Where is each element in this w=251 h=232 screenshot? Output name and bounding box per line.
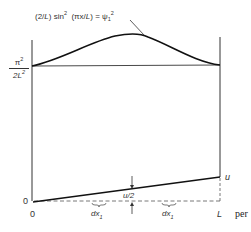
origin-y-label: 0 — [23, 197, 28, 206]
formula-arg: (πx/ — [67, 12, 86, 21]
formula-psi: ) = ψ — [90, 12, 107, 21]
fraction-denominator: 2L2 — [9, 69, 29, 80]
curve-pointer — [130, 20, 144, 35]
interval-bracket-2 — [162, 203, 176, 207]
fraction-numerator: π2 — [9, 57, 29, 69]
x-origin-label: 0 — [30, 210, 35, 219]
trailing-text: per — [235, 209, 248, 219]
curve-formula-label: (2/L) sin2 (πx/L) = ψ12 — [35, 11, 114, 23]
arrow-up-head — [130, 202, 134, 206]
u-label: u — [225, 173, 230, 182]
formula-prefix: (2/ — [35, 12, 44, 21]
midpoint-label: u/2 — [123, 192, 134, 200]
energy-level-label: π2 2L2 — [9, 57, 29, 79]
x-end-label: L — [217, 210, 222, 219]
formula-sin: ) sin — [49, 12, 64, 21]
interval-bracket-1 — [92, 203, 106, 207]
formula-psi-sub: 1 — [108, 16, 111, 22]
interval-label-2: dx1 — [162, 210, 174, 220]
interval-label-1: dx1 — [91, 210, 103, 220]
formula-psi-exp: 2 — [111, 10, 114, 16]
probability-density-curve — [32, 34, 220, 66]
energy-level-line — [32, 65, 220, 66]
